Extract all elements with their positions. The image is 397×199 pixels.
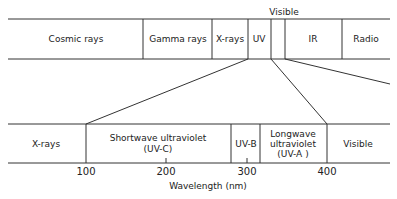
tick-300: 300 [237,166,256,177]
tick-400: 400 [317,166,336,177]
band-radio: Radio [353,34,378,44]
axis-label: Wavelength (nm) [169,181,247,191]
band-visible-bottom: Visible [343,139,372,149]
band-uv-b: UV-B [235,139,256,149]
band-uv-a-sub2: (UV-A ) [277,149,308,159]
band-x-rays: X-rays [216,34,244,44]
tick-200: 200 [156,166,175,177]
band-uv-a-title: Longwave [270,129,316,139]
visible-header-label: Visible [269,7,298,17]
band-cosmic-rays: Cosmic rays [49,34,104,44]
band-uv-c-sub: (UV-C) [144,144,173,154]
band-uv-a-sub: ultraviolet [270,139,316,149]
band-uv: UV [253,34,266,44]
band-x-rays-bottom: X-rays [32,139,60,149]
band-uv-c-title: Shortwave ultraviolet [110,133,207,143]
spectrum-lines [0,0,397,199]
band-gamma-rays: Gamma rays [149,34,207,44]
band-ir: IR [309,34,318,44]
tick-100: 100 [76,166,95,177]
